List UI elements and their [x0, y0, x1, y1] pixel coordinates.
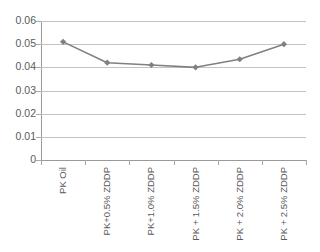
data-point-marker: [237, 56, 243, 62]
x-axis-label-slot: PK Oil: [56, 167, 70, 252]
x-axis-tick: [174, 160, 175, 165]
x-axis-tick-label: PK + 1.5% ZDDP: [191, 167, 201, 241]
y-axis-tick-label: 0.06: [0, 15, 36, 25]
x-axis-tick-label: PK + 2.0% ZDDP: [235, 167, 245, 241]
line-chart: 00.010.020.030.040.050.06 PK OilPK+0.5% …: [0, 0, 320, 252]
y-axis-tick-label: 0.04: [0, 61, 36, 71]
y-axis-tick-label: 0: [0, 154, 36, 164]
x-axis-labels: PK OilPK+0.5% ZDDPPK+1.0% ZDDPPK + 1.5% …: [41, 167, 306, 252]
x-axis-label-slot: PK+0.5% ZDDP: [100, 167, 114, 252]
data-point-marker: [104, 60, 110, 66]
x-axis-tick: [262, 160, 263, 165]
x-axis-tick: [129, 160, 130, 165]
data-point-marker: [192, 64, 198, 70]
data-point-marker: [60, 39, 66, 45]
data-point-marker: [281, 41, 287, 47]
x-axis-tick: [85, 160, 86, 165]
x-axis-tick-label: PK Oil: [58, 167, 68, 194]
y-axis-tick-label: 0.03: [0, 85, 36, 95]
plot-area: [41, 21, 306, 160]
x-axis-tick: [306, 160, 307, 165]
x-axis-label-slot: PK + 2.0% ZDDP: [233, 167, 247, 252]
y-axis-tick-label: 0.02: [0, 108, 36, 118]
data-point-marker: [148, 62, 154, 68]
x-axis-tick-label: PK + 2.5% ZDDP: [279, 167, 289, 241]
x-axis-tick: [218, 160, 219, 165]
y-axis-tick-label: 0.05: [0, 38, 36, 48]
x-axis-label-slot: PK + 1.5% ZDDP: [189, 167, 203, 252]
data-series-zddp: [41, 21, 306, 160]
x-axis-tick-label: PK+0.5% ZDDP: [102, 167, 112, 235]
x-axis-label-slot: PK+1.0% ZDDP: [144, 167, 158, 252]
x-axis-label-slot: PK + 2.5% ZDDP: [277, 167, 291, 252]
y-axis-tick-label: 0.01: [0, 131, 36, 141]
x-axis-tick: [41, 160, 42, 165]
x-axis-tick-label: PK+1.0% ZDDP: [146, 167, 156, 235]
series-line: [63, 42, 284, 67]
